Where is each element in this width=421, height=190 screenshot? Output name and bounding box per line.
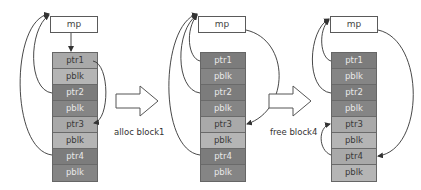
transition-arrow-free bbox=[269, 86, 311, 116]
ptr1-to-mp-arrow bbox=[322, 20, 331, 61]
transition-arrow-alloc bbox=[116, 86, 158, 116]
ptr4-to-ptr3-arrow bbox=[321, 124, 331, 155]
ptr2-to-mp-arrow bbox=[312, 19, 331, 93]
mp-to-ptr4-arrow bbox=[378, 30, 413, 156]
panel1-links bbox=[20, 14, 106, 155]
connector-overlay bbox=[0, 0, 421, 190]
ptr1-to-ptr3-arrow bbox=[93, 61, 106, 123]
ptr1-to-mp-arrow bbox=[189, 15, 200, 61]
ptr2-to-mp-arrow bbox=[34, 15, 52, 93]
ptr4-to-mp-arrow bbox=[20, 14, 52, 155]
ptr2-to-mp-arrow bbox=[181, 15, 200, 93]
panel3-links bbox=[312, 19, 413, 156]
panel2-links bbox=[169, 14, 279, 155]
mp-to-ptr3-arrow bbox=[246, 30, 279, 124]
